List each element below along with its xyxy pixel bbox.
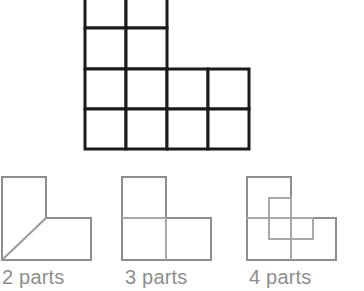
- figure-2-parts: [0, 172, 100, 267]
- figure-4-parts: [245, 172, 350, 267]
- polyomino-cell: [126, 109, 167, 149]
- polyomino-cell: [85, 0, 126, 28]
- polyomino-cell: [126, 28, 167, 69]
- polyomino-cell: [208, 69, 249, 109]
- figure-3-parts: [120, 172, 220, 267]
- caption-row: 2 parts 3 parts 4 parts: [0, 265, 364, 291]
- main-l-polyomino: [0, 0, 364, 165]
- caption-4-parts: 4 parts: [249, 265, 312, 289]
- polyomino-cell: [85, 69, 126, 109]
- caption-3-parts: 3 parts: [125, 265, 188, 289]
- polyomino-cell: [167, 109, 208, 149]
- caption-2-parts: 2 parts: [2, 265, 65, 289]
- polyomino-cell: [85, 28, 126, 69]
- polyomino-cell: [126, 0, 167, 28]
- figure-canvas: 2 parts 3 parts 4 parts: [0, 0, 364, 291]
- polyomino-cell: [85, 109, 126, 149]
- main-shape-cells: [85, 0, 249, 149]
- polyomino-cell: [208, 109, 249, 149]
- polyomino-cell: [126, 69, 167, 109]
- polyomino-cell: [167, 69, 208, 109]
